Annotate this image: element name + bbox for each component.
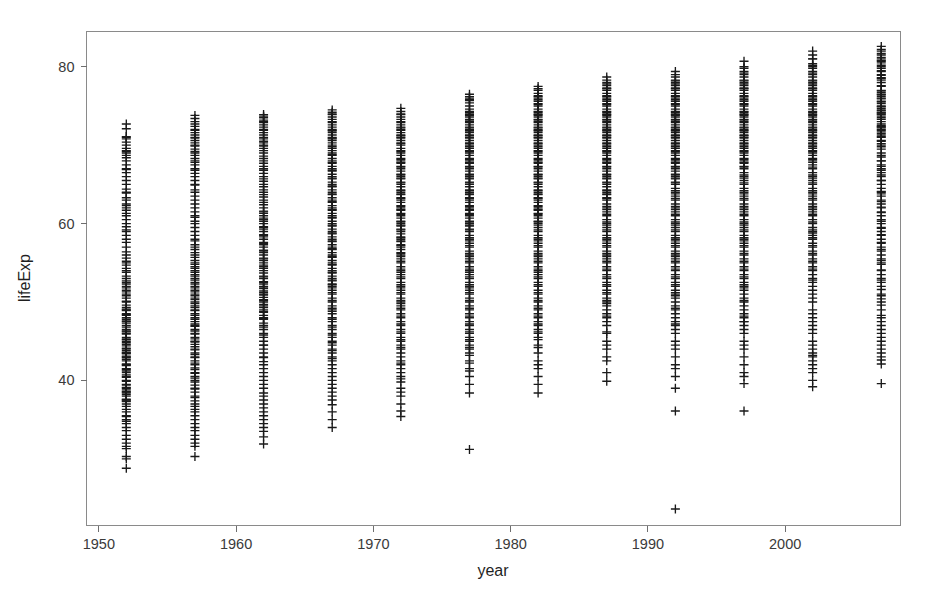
x-tick-label: 1950 [83, 536, 115, 552]
x-tick-label: 1980 [495, 536, 527, 552]
x-axis-title: year [477, 562, 509, 579]
x-tick-label: 1990 [632, 536, 664, 552]
y-axis-title: lifeExp [16, 254, 33, 302]
y-tick-label: 80 [58, 59, 74, 75]
x-tick-label: 1970 [357, 536, 389, 552]
x-tick-label: 2000 [769, 536, 801, 552]
y-tick-label: 60 [58, 216, 74, 232]
y-tick-label: 40 [58, 372, 74, 388]
chart-canvas: 406080 195019601970198019902000 year lif… [0, 0, 948, 597]
figure-background [0, 0, 948, 597]
x-tick-label: 1960 [220, 536, 252, 552]
scatter-plot-figure: 406080 195019601970198019902000 year lif… [0, 0, 948, 597]
